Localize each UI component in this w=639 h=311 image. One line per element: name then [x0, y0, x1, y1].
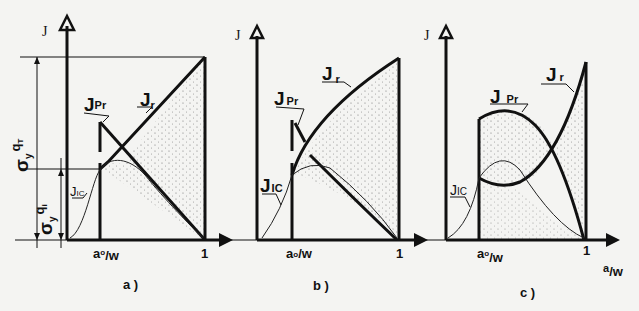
label-sigma-qT: σyqT: [8, 138, 34, 172]
panel-a: J Jr JPr JIC σyqT σyqi ao/w 1 a ): [8, 16, 233, 292]
label-Jr-c: Jr: [546, 64, 565, 85]
svg-text:σyqi: σyqi: [32, 204, 58, 235]
y-axis-label-b: J: [235, 28, 241, 43]
x-axis-label-c: a/w: [603, 262, 624, 279]
curve-JPr-b: [295, 123, 305, 142]
label-JPr-b: JPr: [274, 88, 299, 109]
caption-c: c ): [520, 285, 535, 300]
x-tick-one-a: 1: [201, 246, 208, 261]
label-sigma-qi: σyqi: [32, 204, 58, 235]
y-axis-label-c: J: [424, 28, 430, 43]
x-tick-a0-c: ao/w: [477, 246, 504, 265]
svg-text:σyqT: σyqT: [8, 138, 34, 172]
stipple-region-b: [292, 58, 399, 235]
label-JIC-c: JIC: [450, 182, 467, 198]
stipple-region-a: [100, 57, 205, 240]
caption-a: a ): [123, 277, 138, 292]
figure-canvas: J Jr JPr JIC σyqT σyqi ao/w 1 a ) J Jr: [0, 0, 639, 311]
x-axis-arrow-c: [606, 233, 620, 247]
x-tick-a0-a: ao/w: [93, 246, 120, 263]
panel-b: J Jr JPr JIC ao/w 1 b ): [225, 26, 428, 293]
caption-b: b ): [313, 278, 329, 293]
panel-c: J Jr JPr JIC ao/w 1 a/w c ): [424, 26, 624, 300]
x-tick-one-b: 1: [396, 246, 403, 261]
x-tick-a0-b: ao/w: [286, 246, 313, 261]
label-Jr-a: Jr: [140, 89, 156, 111]
y-axis-label-a: J: [42, 24, 48, 39]
label-JPr-a: JPr: [84, 94, 107, 115]
label-JIC-b: JIC: [260, 175, 283, 196]
x-tick-one-c: 1: [583, 243, 590, 258]
label-JIC-a: JIC: [70, 184, 85, 199]
label-Jr-b: Jr: [322, 63, 341, 85]
